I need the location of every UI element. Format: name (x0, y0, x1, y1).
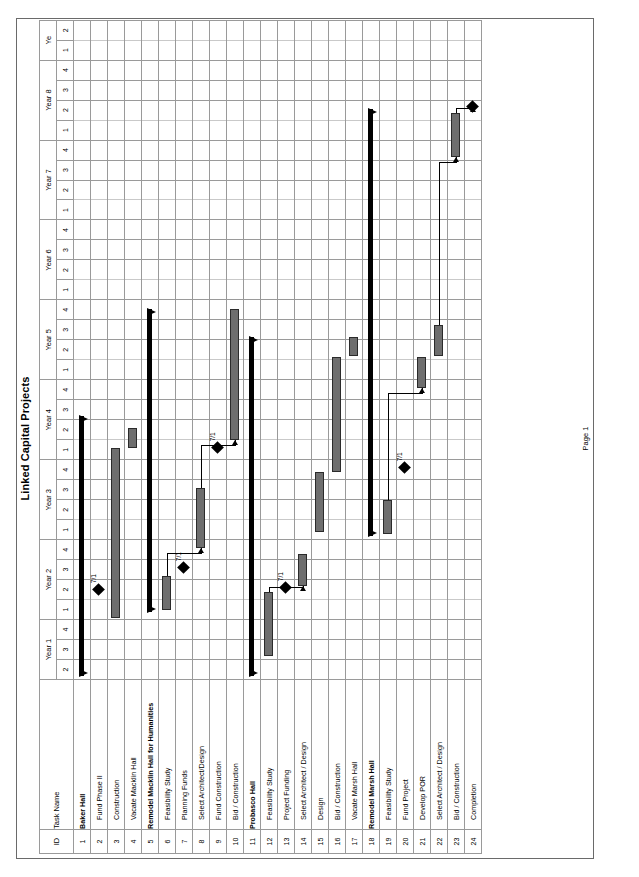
timeline-quarter-header: 4 (57, 460, 74, 480)
table-row[interactable]: 6Feasibility Study (159, 20, 176, 853)
timeline-cell (210, 600, 227, 620)
timeline-cell (380, 300, 397, 320)
table-row[interactable]: 14Select Architect / Design (295, 20, 312, 853)
timeline-cell (278, 20, 295, 40)
timeline-cell (380, 140, 397, 160)
table-row[interactable]: 4Vacate Macklin Hall (125, 20, 142, 853)
timeline-cell (244, 200, 261, 220)
timeline-cell (142, 60, 159, 80)
timeline-cell (380, 220, 397, 240)
table-row[interactable]: 21Develop POR (414, 20, 431, 853)
table-row[interactable]: 23Bid / Construction (448, 20, 465, 853)
timeline-cell (125, 40, 142, 60)
table-row[interactable]: 19Feasibility Study (380, 20, 397, 853)
table-row[interactable]: 3Construction (108, 20, 125, 853)
timeline-cell (431, 400, 448, 420)
timeline-cell (329, 100, 346, 120)
timeline-cell (227, 20, 244, 40)
row-id-cell: 19 (380, 830, 397, 854)
timeline-cell (227, 200, 244, 220)
table-row[interactable]: 9Fund Construction (210, 20, 227, 853)
timeline-cell (193, 580, 210, 600)
row-id-cell: 11 (244, 830, 261, 854)
timeline-cell (448, 560, 465, 580)
timeline-cell (295, 180, 312, 200)
table-row[interactable]: 11Probasco Hall (244, 20, 261, 853)
table-row[interactable]: 13Project Funding (278, 20, 295, 853)
timeline-cell (465, 480, 482, 500)
table-row[interactable]: 16Bid / Construction (329, 20, 346, 853)
table-row[interactable]: 22Select Architect / Design (431, 20, 448, 853)
timeline-cell (346, 180, 363, 200)
timeline-year-header: Year 6 (40, 220, 57, 300)
timeline-cell (74, 160, 91, 180)
timeline-cell (346, 80, 363, 100)
timeline-cell (125, 600, 142, 620)
timeline-quarter-header: 1 (57, 600, 74, 620)
timeline-cell (465, 220, 482, 240)
table-row[interactable]: 10Bid / Construction (227, 20, 244, 853)
timeline-cell (142, 480, 159, 500)
timeline-cell (448, 20, 465, 40)
table-row[interactable]: 7Planning Funds (176, 20, 193, 853)
table-row[interactable]: 2Fund Phase II (91, 20, 108, 853)
timeline-cell (227, 120, 244, 140)
timeline-cell (142, 380, 159, 400)
timeline-cell (193, 440, 210, 460)
timeline-cell (346, 600, 363, 620)
timeline-cell (159, 380, 176, 400)
row-task-name-cell: Fund Phase II (91, 680, 108, 830)
timeline-cell (380, 280, 397, 300)
timeline-cell (414, 360, 431, 380)
timeline-cell (244, 420, 261, 440)
timeline-cell (431, 40, 448, 60)
timeline-cell (346, 440, 363, 460)
timeline-cell (108, 660, 125, 680)
timeline-cell (397, 140, 414, 160)
timeline-cell (210, 240, 227, 260)
table-row[interactable]: 17Vacate Marsh Hall (346, 20, 363, 853)
table-row[interactable]: 5Remodel Macklin Hall for Humanities (142, 20, 159, 853)
timeline-cell (295, 400, 312, 420)
timeline-cell (125, 580, 142, 600)
table-row[interactable]: 15Design (312, 20, 329, 853)
timeline-cell (380, 580, 397, 600)
timeline-cell (74, 340, 91, 360)
timeline-cell (210, 120, 227, 140)
timeline-cell (193, 560, 210, 580)
timeline-cell (108, 560, 125, 580)
timeline-cell (312, 600, 329, 620)
table-row[interactable]: 20Fund Project (397, 20, 414, 853)
timeline-cell (244, 100, 261, 120)
timeline-cell (329, 620, 346, 640)
timeline-cell (261, 320, 278, 340)
timeline-cell (176, 40, 193, 60)
table-row[interactable]: 18Remodel Marsh Hall (363, 20, 380, 853)
timeline-cell (244, 220, 261, 240)
timeline-cell (431, 260, 448, 280)
timeline-cell (346, 380, 363, 400)
timeline-cell (74, 360, 91, 380)
timeline-cell (125, 440, 142, 460)
timeline-cell (329, 420, 346, 440)
row-task-name-cell: Remodel Marsh Hall (363, 680, 380, 830)
timeline-cell (91, 20, 108, 40)
table-row[interactable]: 24Completion (465, 20, 482, 853)
timeline-cell (108, 160, 125, 180)
timeline-cell (363, 240, 380, 260)
table-row[interactable]: 8Select Architect/Design (193, 20, 210, 853)
timeline-cell (397, 80, 414, 100)
timeline-cell (380, 100, 397, 120)
timeline-cell (210, 140, 227, 160)
timeline-cell (346, 340, 363, 360)
timeline-cell (278, 640, 295, 660)
timeline-cell (74, 420, 91, 440)
timeline-cell (91, 580, 108, 600)
timeline-cell (397, 480, 414, 500)
table-row[interactable]: 12Feasibility Study (261, 20, 278, 853)
timeline-cell (346, 420, 363, 440)
timeline-quarter-header: 1 (57, 280, 74, 300)
table-row[interactable]: 1Baker Hall (74, 20, 91, 853)
timeline-cell (329, 180, 346, 200)
timeline-cell (312, 380, 329, 400)
